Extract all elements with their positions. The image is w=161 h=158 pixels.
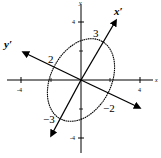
y-tick-label-pos4: 4 bbox=[72, 19, 75, 25]
x-tick-label-neg4: -4 bbox=[17, 87, 22, 93]
label-x-prime-pos3: 3 bbox=[93, 27, 99, 39]
x-prime-label: x′ bbox=[113, 5, 123, 17]
x-axis-label: x bbox=[154, 77, 158, 83]
y-tick-label-neg4: -4 bbox=[70, 135, 75, 141]
y-axis-label: y bbox=[78, 0, 82, 6]
label-y-prime-pos2: 2 bbox=[48, 53, 54, 65]
label-x-prime-neg3: −3 bbox=[43, 113, 55, 125]
y-axis: y 4 -4 bbox=[70, 0, 84, 153]
label-y-prime-neg2: −2 bbox=[103, 102, 115, 114]
ellipse-diagram: x -4 4 y 4 -4 x′ y′ 3 −3 2 −2 bbox=[0, 0, 161, 158]
x-axis: x -4 4 bbox=[7, 77, 158, 93]
y-prime-axis: y′ bbox=[2, 38, 138, 107]
y-prime-label: y′ bbox=[2, 38, 12, 50]
x-tick-label-pos4: 4 bbox=[138, 87, 141, 93]
x-prime-axis: x′ bbox=[52, 5, 123, 134]
